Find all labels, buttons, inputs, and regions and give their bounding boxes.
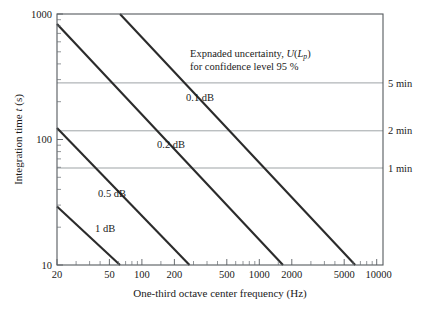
y-axis-title-unit: (s) (12, 94, 25, 109)
x-tick-label-500: 500 (219, 269, 235, 280)
y-tick-labels: 10 100 1000 (31, 9, 52, 271)
x-tick-label-50: 50 (104, 269, 115, 280)
x-tick-label-10000: 10000 (365, 269, 391, 280)
y-tick-label-1000: 1000 (31, 9, 52, 20)
x-tick-label-100: 100 (134, 269, 150, 280)
y-tick-label-10: 10 (42, 260, 53, 271)
curve-label-0-5-db: 0.5 dB (98, 188, 126, 199)
minute-label-1-min: 1 min (388, 163, 413, 174)
minute-label-2-min: 2 min (388, 125, 413, 136)
x-tick-label-20: 20 (52, 269, 63, 280)
x-tick-label-1000: 1000 (249, 269, 270, 280)
x-tick-label-5000: 5000 (334, 269, 355, 280)
x-tick-label-2000: 2000 (281, 269, 302, 280)
curve-label-0-1-db: 0.1 dB (186, 92, 214, 103)
x-tick-labels: 20 50 100 200 500 1000 2000 5000 10000 (52, 269, 392, 280)
curve-label-1-db: 1 dB (95, 223, 115, 234)
x-axis-title: One-third octave center frequency (Hz) (133, 287, 307, 300)
annotation-prefix: Expnaded uncertainty, (190, 48, 286, 59)
curve-label-0-2-db: 0.2 dB (157, 139, 185, 150)
log-log-chart: 10 100 1000 20 50 100 200 500 1000 2000 … (0, 0, 433, 310)
annotation-line-2: for confidence level 95 % (190, 61, 299, 72)
y-axis-title: Integration time t (s) (12, 94, 25, 185)
y-axis-title-pre: Integration time (12, 112, 24, 185)
annotation-paren-close: ) (307, 48, 311, 60)
minute-label-5-min: 5 min (388, 78, 413, 89)
figure-container: 10 100 1000 20 50 100 200 500 1000 2000 … (0, 0, 433, 310)
x-tick-label-200: 200 (167, 269, 183, 280)
y-tick-label-100: 100 (36, 134, 52, 145)
x-axis-title-text: One-third octave center frequency (Hz) (133, 287, 307, 300)
minute-labels: 5 min 2 min 1 min (388, 78, 413, 174)
